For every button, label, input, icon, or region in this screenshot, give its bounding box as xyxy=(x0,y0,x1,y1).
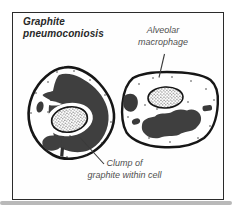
figure-graphite-pneumoconiosis: Graphite pneumoconiosis Alveolar macroph… xyxy=(0,0,232,208)
graphite-lobe-bottom-left xyxy=(42,136,62,151)
label-clump-of-graphite: Clump of graphite within cell xyxy=(77,158,172,181)
alveolar-macrophage-cell-right xyxy=(122,72,218,147)
alveolar-macrophage-cell-left xyxy=(29,67,114,159)
label-alveolar-macrophage: Alveolar macrophage xyxy=(128,25,198,48)
figure-title: Graphite pneumoconiosis xyxy=(23,16,133,40)
graphite-particle-left xyxy=(123,94,138,112)
